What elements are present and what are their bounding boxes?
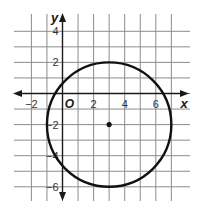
- origin-label: O: [65, 97, 75, 111]
- x-tick-label: 4: [122, 98, 128, 110]
- center-point: [107, 122, 112, 127]
- x-axis-arrow-left-icon: [13, 90, 22, 97]
- grid: [14, 14, 190, 201]
- x-tick-label: 2: [91, 98, 97, 110]
- coordinate-plane: −224642−2−4−6 x y O: [0, 0, 201, 219]
- x-axis-label: x: [179, 96, 188, 111]
- y-axis-arrow-down-icon: [59, 192, 66, 201]
- x-tick-label: −2: [25, 98, 38, 110]
- points: [107, 122, 112, 127]
- y-axis-label: y: [50, 10, 59, 25]
- y-tick-label: 2: [52, 56, 58, 68]
- y-tick-label: 4: [52, 25, 58, 37]
- x-tick-label: 6: [153, 98, 159, 110]
- y-axis-arrow-up-icon: [59, 13, 66, 22]
- axes: [13, 13, 189, 201]
- y-tick-label: −6: [46, 181, 59, 193]
